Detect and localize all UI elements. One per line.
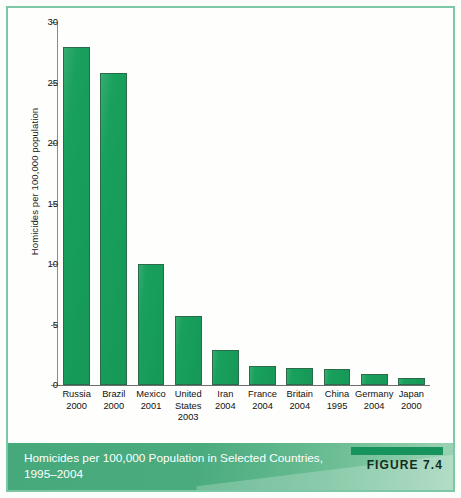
y-axis-tick-label: 30 [30,16,58,27]
y-axis-tick-label: 15 [30,198,58,209]
bar [100,73,127,385]
bar-series [58,22,430,385]
bar [138,264,165,385]
figure-label-accent-bar [351,447,443,455]
category-year: 2000 [388,401,436,413]
bar [324,369,351,385]
figure-number-label: FIGURE 7.4 [343,458,443,472]
y-axis-tick-label: 10 [30,258,58,269]
bar [175,316,202,385]
category-country: Japan [388,389,436,401]
category-year: 2003 [164,412,212,424]
x-axis-line [57,385,430,386]
bar [361,374,388,385]
bar [398,378,425,385]
x-axis-category-labels: Russia2000Brazil2000Mexico2001United Sta… [58,389,430,437]
figure-caption: Homicides per 100,000 Population in Sele… [24,451,324,482]
bar [63,47,90,385]
chart-plot-wrapper: Homicides per 100,000 population 0510152… [8,8,453,433]
x-axis-category-label: Japan2000 [388,389,436,412]
figure-container: Homicides per 100,000 population 0510152… [0,0,461,498]
bar [212,350,239,385]
bar [249,366,276,385]
bar [286,368,313,385]
y-axis-tick-label: 5 [30,319,58,330]
y-axis-tick-label: 20 [30,137,58,148]
caption-band: Homicides per 100,000 Population in Sele… [8,443,453,490]
y-axis-tick-label: 25 [30,77,58,88]
